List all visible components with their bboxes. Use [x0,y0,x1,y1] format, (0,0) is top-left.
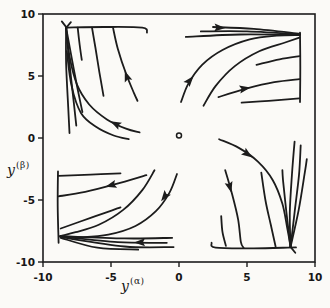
flow-arrow-icon [183,73,196,87]
trajectory-br-steep [225,170,243,248]
flow-arrow-icon [121,70,132,83]
trajectory-br-drape [261,173,275,247]
x-tick-label: -5 [105,271,117,283]
flow-arrow-icon [104,180,117,191]
flow-arrow-icon [225,181,236,194]
y-axis-label: y(β) [7,161,29,178]
phase-portrait-figure: -10-505101050-5-10 y(α) y(β) [0,0,330,308]
trajectory-br-bottom-line [211,243,296,249]
y-tick-label: 10 [20,8,35,20]
y-axis-label-base: y [7,162,15,178]
x-tick-label: -10 [34,271,53,283]
trajectory-tr-sweep-1 [181,35,299,102]
y-axis-label-superscript: (β) [16,160,30,170]
trajectory-tr-low-curve [242,98,300,102]
trajectory-tl-drape-2 [92,28,104,96]
x-tick-label: 10 [308,271,323,283]
y-tick-label: -10 [16,256,35,268]
trajectory-tr-mid-curve [218,79,299,97]
trajectory-bl-vertical-line [58,172,59,243]
trajectory-br-reed-2 [291,145,301,247]
x-tick-label: 5 [243,271,250,283]
trajectory-bl-top-curve [59,173,121,176]
flow-arrow-icon [109,118,122,130]
trajectory-br-sweep [219,139,290,246]
x-axis-label: y(α) [121,277,144,294]
trajectory-bl-sweep-2 [61,170,155,236]
y-tick-label: 0 [28,132,35,144]
y-tick-label: -5 [23,194,35,206]
y-tick-label: 5 [28,70,35,82]
trajectory-tl-drape-1 [78,28,82,60]
equilibrium-marker [177,133,182,138]
x-tick-label: 0 [175,271,182,283]
trajectory-tl-drape-3 [113,28,138,101]
trajectory-tr-upper-curve [257,56,300,65]
trajectory-br-short [221,216,226,246]
x-axis-label-superscript: (α) [130,276,145,286]
x-axis-label-base: y [121,278,129,294]
trajectory-bl-mid-curve [59,175,147,196]
trajectory-tr-sweep-2 [204,38,300,106]
plot-area: -10-505101050-5-10 [0,0,330,308]
